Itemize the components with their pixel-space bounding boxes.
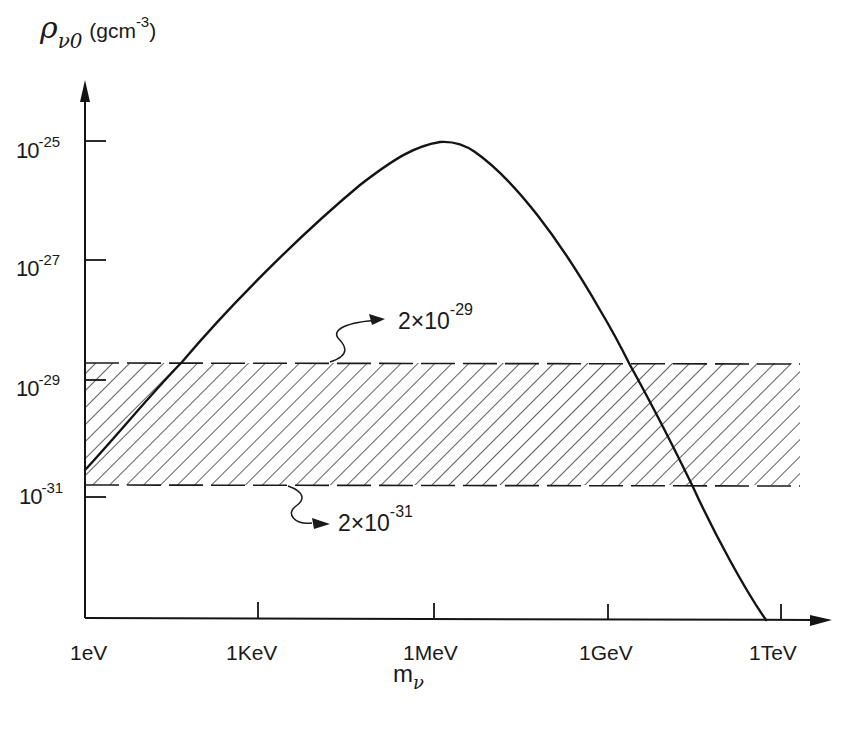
lower-arrowhead-icon bbox=[312, 518, 330, 529]
y-title-unit: (gcm bbox=[89, 19, 136, 42]
y-tick-base: 10 bbox=[19, 484, 41, 509]
x-title-subscript: ν bbox=[413, 672, 424, 693]
y-tick-base: 10 bbox=[16, 138, 38, 163]
y-tick-exponent: -29 bbox=[38, 371, 60, 388]
y-title-unit-close: ) bbox=[149, 19, 156, 42]
upper-arrowhead-icon bbox=[369, 314, 385, 325]
lower-annotation-arrow bbox=[288, 486, 312, 523]
y-tick-base: 10 bbox=[16, 376, 38, 401]
y-title-symbol: ρ bbox=[40, 10, 58, 45]
y-tick-label-1e-25: 10-25 bbox=[16, 140, 60, 162]
lower-band-annotation: 2×10-31 bbox=[338, 510, 413, 537]
upper-annotation-arrow bbox=[330, 320, 380, 362]
x-tick-label-1ev: 1eV bbox=[70, 642, 107, 663]
hatched-band bbox=[85, 363, 800, 486]
y-tick-label-1e-29: 10-29 bbox=[16, 378, 60, 400]
y-tick-exponent: -31 bbox=[41, 479, 63, 496]
x-tick-label-1tev: 1TeV bbox=[749, 642, 797, 663]
x-axis bbox=[85, 602, 832, 626]
annotation-base: 2×10 bbox=[338, 510, 390, 536]
y-tick-exponent: -27 bbox=[38, 251, 60, 268]
x-tick-label-1kev: 1KeV bbox=[226, 642, 277, 663]
y-axis-title: ρν0 (gcm-3) bbox=[40, 10, 156, 45]
upper-band-annotation: 2×10-29 bbox=[398, 308, 473, 335]
y-title-unit-exponent: -3 bbox=[136, 13, 149, 30]
annotation-exponent: -29 bbox=[450, 301, 473, 318]
y-tick-base: 10 bbox=[16, 256, 38, 281]
band-upper-edge bbox=[85, 363, 800, 364]
y-tick-exponent: -25 bbox=[38, 133, 60, 150]
x-axis-title: mν bbox=[393, 660, 424, 688]
chart-canvas bbox=[0, 0, 851, 734]
x-title-symbol: m bbox=[393, 660, 413, 687]
y-axis bbox=[80, 80, 106, 618]
y-tick-label-1e-31: 10-31 bbox=[19, 486, 63, 508]
y-title-subscript: ν0 bbox=[58, 29, 83, 53]
y-axis-arrow-icon bbox=[80, 80, 90, 102]
x-tick-label-1gev: 1GeV bbox=[579, 642, 633, 663]
annotation-exponent: -31 bbox=[390, 503, 413, 520]
y-tick-label-1e-27: 10-27 bbox=[16, 258, 60, 280]
annotation-base: 2×10 bbox=[398, 308, 450, 334]
x-axis-arrow-icon bbox=[810, 615, 832, 626]
